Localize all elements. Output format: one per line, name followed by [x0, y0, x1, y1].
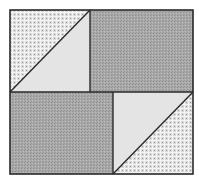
quilt-block-diagram	[0, 0, 199, 180]
bottom-left-dark-rectangle	[10, 92, 113, 174]
top-right-dark-rectangle	[90, 10, 193, 92]
